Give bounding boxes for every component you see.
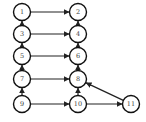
node-label: 1 (20, 8, 24, 16)
node-5: 5 (14, 48, 31, 65)
node-label: 11 (127, 100, 135, 108)
node-label: 9 (20, 100, 24, 108)
node-6: 6 (70, 48, 87, 65)
node-1: 1 (14, 4, 31, 21)
node-11: 11 (123, 96, 140, 113)
node-10: 10 (70, 96, 87, 113)
node-3: 3 (14, 26, 31, 43)
node-label: 8 (76, 75, 80, 83)
node-label: 7 (20, 75, 24, 83)
nodes: 1234567891011 (14, 4, 140, 113)
node-9: 9 (14, 96, 31, 113)
edge-11-to-8 (86, 83, 123, 101)
node-4: 4 (70, 26, 87, 43)
node-7: 7 (14, 71, 31, 88)
node-label: 4 (76, 30, 80, 38)
node-label: 5 (20, 52, 24, 60)
node-label: 10 (74, 100, 82, 108)
node-label: 6 (76, 52, 80, 60)
directed-graph: 1234567891011 (0, 0, 146, 122)
node-label: 3 (20, 30, 24, 38)
node-8: 8 (70, 71, 87, 88)
node-label: 2 (76, 8, 80, 16)
node-2: 2 (70, 4, 87, 21)
